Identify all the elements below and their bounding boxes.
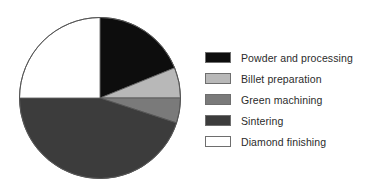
legend-item-green-machining: Green machining: [205, 90, 363, 109]
chart-legend: Powder and processing Billet preparation…: [205, 48, 363, 153]
pie-slice-group: [20, 18, 181, 179]
legend-label-powder-and-processing: Powder and processing: [241, 52, 353, 64]
pie-slice: [20, 18, 101, 99]
pie-chart-figure: Powder and processing Billet preparation…: [0, 0, 367, 190]
legend-item-billet-preparation: Billet preparation: [205, 69, 363, 88]
legend-label-billet-preparation: Billet preparation: [241, 73, 322, 85]
legend-swatch-green-machining: [205, 94, 231, 105]
legend-label-green-machining: Green machining: [241, 94, 322, 106]
legend-item-powder-and-processing: Powder and processing: [205, 48, 363, 67]
pie-chart-graphic: [19, 17, 181, 179]
legend-item-diamond-finishing: Diamond finishing: [205, 132, 363, 151]
legend-label-sintering: Sintering: [241, 115, 283, 127]
legend-swatch-diamond-finishing: [205, 136, 231, 147]
legend-label-diamond-finishing: Diamond finishing: [241, 136, 326, 148]
legend-swatch-sintering: [205, 115, 231, 126]
legend-item-sintering: Sintering: [205, 111, 363, 130]
pie-svg: [19, 17, 181, 179]
legend-swatch-powder-and-processing: [205, 52, 231, 63]
legend-swatch-billet-preparation: [205, 73, 231, 84]
